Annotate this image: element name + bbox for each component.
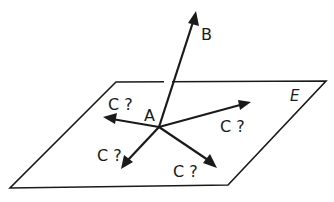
ray-ab xyxy=(159,11,199,127)
label-a: A xyxy=(144,106,155,125)
arrowhead-icon xyxy=(203,154,217,168)
arrowhead-icon xyxy=(103,113,117,124)
arrowhead-icon xyxy=(238,100,251,110)
label-c-lower-right: C ? xyxy=(173,162,198,181)
label-e: E xyxy=(290,87,300,105)
label-c-right: C ? xyxy=(220,117,245,136)
ray-c-lower-left xyxy=(121,127,159,169)
arrowhead-b-icon xyxy=(188,11,199,26)
label-c-lower-left: C ? xyxy=(97,146,122,165)
diagram-canvas: B E A C ? C ? C ? C ? xyxy=(0,0,334,202)
label-b: B xyxy=(201,25,212,44)
label-c-upper-left: C ? xyxy=(108,95,133,114)
